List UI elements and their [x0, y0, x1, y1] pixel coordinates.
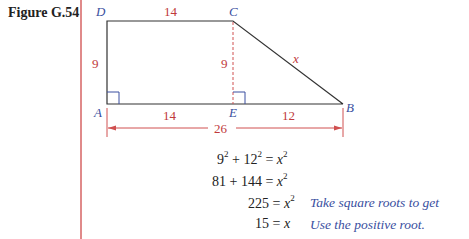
vertex-c: C: [229, 4, 238, 19]
note-square-roots: Take square roots to get: [310, 195, 439, 211]
equation-4: 15 = x: [255, 216, 290, 232]
dim-hyp-cb: x: [292, 51, 299, 66]
dim-total-ab: 26: [214, 121, 228, 136]
vertex-a: A: [93, 105, 102, 120]
dim-left-da: 9: [92, 56, 99, 71]
vertex-e: E: [228, 105, 237, 120]
equation-1: 92 + 122 = x2: [217, 150, 288, 168]
dim-top-dc: 14: [164, 4, 178, 19]
vertex-b: B: [346, 100, 354, 115]
vertex-d: D: [95, 4, 106, 19]
equation-3: 225 = x2: [248, 194, 295, 212]
dim-bottom-ae: 14: [163, 108, 177, 123]
note-positive-root: Use the positive root.: [310, 217, 425, 233]
right-angle-e-icon: [233, 92, 245, 104]
arrowhead-left-icon: [108, 126, 116, 131]
equation-2: 81 + 144 = x2: [212, 172, 288, 190]
right-angle-a-icon: [107, 92, 119, 104]
arrowhead-right-icon: [334, 126, 342, 131]
dim-bottom-eb: 12: [282, 108, 295, 123]
dim-height-ce: 9: [221, 56, 228, 71]
